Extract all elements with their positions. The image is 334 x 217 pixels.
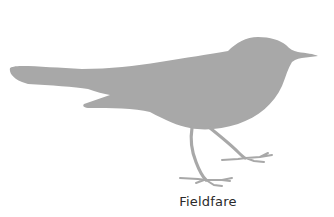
fieldfare-silhouette-icon [0, 0, 334, 217]
bird-illustration: Fieldfare [0, 0, 334, 217]
species-caption: Fieldfare [160, 194, 256, 209]
